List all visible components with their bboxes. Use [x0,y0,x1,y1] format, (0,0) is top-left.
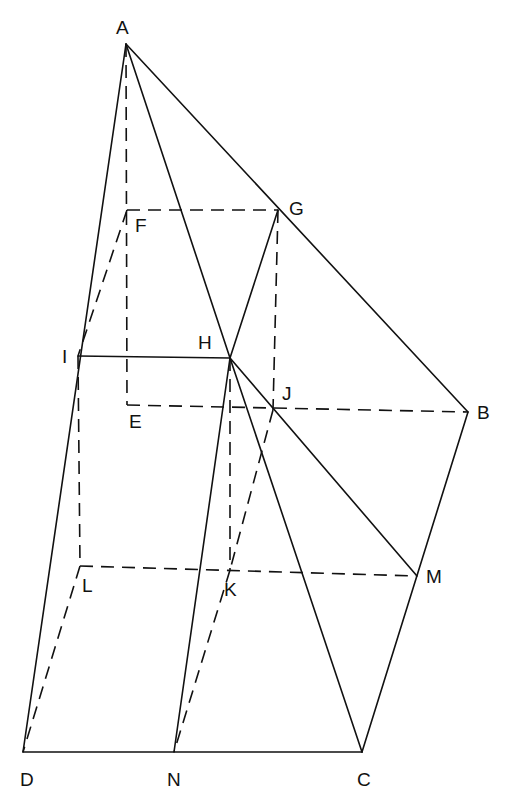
labels-group: A B C D E F G H I J K L M N [20,17,490,790]
label-J: J [282,383,292,404]
label-D: D [20,769,34,790]
edge-EB-hidden [127,405,468,412]
label-K: K [224,579,237,600]
edge-HN [174,358,230,752]
label-A: A [116,17,129,38]
edge-IL-hidden [78,356,80,566]
label-G: G [289,198,304,219]
label-C: C [357,769,371,790]
edges-group [23,44,468,752]
edge-HM [230,358,417,576]
label-H: H [198,332,212,353]
edge-IH [78,356,230,358]
edge-GJ-hidden [273,210,278,410]
edge-AD [23,44,126,752]
edge-KN-hidden [174,570,230,752]
label-L: L [82,575,93,596]
edge-LD-hidden [23,566,80,752]
edge-AH [126,44,230,358]
edge-GH [230,210,278,358]
label-B: B [477,402,490,423]
label-I: I [62,346,67,367]
edge-HC [230,358,362,752]
edge-JK-hidden [230,410,273,570]
edge-BC [362,412,468,752]
label-M: M [426,566,442,587]
edge-LM-hidden [80,566,417,576]
edge-AE-hidden [126,44,127,405]
label-N: N [167,769,181,790]
label-E: E [129,411,142,432]
geometry-figure: A B C D E F G H I J K L M N [0,0,516,811]
edge-FI-hidden [78,210,127,356]
label-F: F [135,215,147,236]
